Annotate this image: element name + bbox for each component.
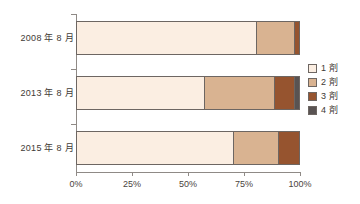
legend-label-1: 1 剤	[321, 64, 338, 73]
legend-swatch-2	[308, 78, 317, 87]
legend-swatch-3	[308, 92, 317, 101]
x-tick-mark-75	[244, 172, 245, 176]
legend-item-3: 3 剤	[308, 90, 338, 102]
bar-segment	[233, 131, 278, 165]
bar-segment	[204, 76, 275, 110]
x-tick-label-0: 0%	[69, 179, 82, 189]
x-tick-mark-0	[76, 172, 77, 176]
legend-swatch-1	[308, 64, 317, 73]
legend-item-2: 2 剤	[308, 76, 338, 88]
legend-swatch-4	[308, 106, 317, 115]
bar-segment	[294, 21, 300, 55]
legend-item-4: 4 剤	[308, 104, 338, 116]
category-label-2015: 2015 年 8 月	[4, 141, 74, 154]
legend-label-4: 4 剤	[321, 106, 338, 115]
bar-row-2015	[76, 131, 300, 165]
x-tick-mark-25	[132, 172, 133, 176]
bar-row-2013	[76, 76, 300, 110]
legend: 1 剤 2 剤 3 剤 4 剤	[308, 62, 338, 116]
stacked-bar-chart: 2008 年 8 月 2013 年 8 月 2015 年 8 月 0% 25% …	[0, 0, 360, 204]
bar-segment	[274, 76, 294, 110]
legend-label-3: 3 剤	[321, 92, 338, 101]
x-tick-label-75: 75%	[235, 179, 253, 189]
bar-segment	[278, 131, 300, 165]
x-tick-label-100: 100%	[288, 179, 311, 189]
bar-segment	[76, 76, 204, 110]
category-label-2013: 2013 年 8 月	[4, 86, 74, 99]
legend-item-1: 1 剤	[308, 62, 338, 74]
legend-label-2: 2 剤	[321, 78, 338, 87]
category-label-2008: 2008 年 8 月	[4, 31, 74, 44]
bar-segment	[76, 131, 233, 165]
plot-area	[76, 14, 300, 172]
x-tick-mark-100	[300, 172, 301, 176]
bar-segment	[76, 21, 256, 55]
x-tick-label-25: 25%	[123, 179, 141, 189]
bar-row-2008	[76, 21, 300, 55]
bar-segment	[294, 76, 300, 110]
bar-segment	[256, 21, 294, 55]
x-tick-label-50: 50%	[179, 179, 197, 189]
x-tick-mark-50	[188, 172, 189, 176]
